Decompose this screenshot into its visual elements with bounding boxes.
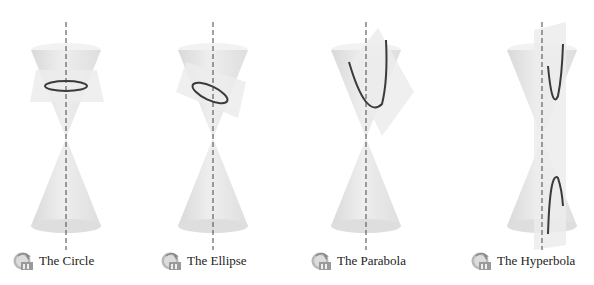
caption-ellipse: The Ellipse bbox=[160, 250, 247, 272]
parabola-cone-diagram bbox=[296, 0, 444, 250]
animation-icon[interactable] bbox=[470, 250, 492, 272]
cutting-plane bbox=[534, 22, 566, 250]
caption-circle: The Circle bbox=[12, 250, 94, 272]
animation-icon[interactable] bbox=[160, 250, 182, 272]
hyperbola-cone-diagram bbox=[444, 0, 594, 250]
panel-hyperbola: The Hyperbola bbox=[444, 0, 592, 285]
caption-parabola: The Parabola bbox=[310, 250, 406, 272]
circle-cone-diagram bbox=[0, 0, 148, 250]
label-hyperbola: The Hyperbola bbox=[497, 253, 575, 269]
label-parabola: The Parabola bbox=[337, 253, 406, 269]
animation-icon[interactable] bbox=[12, 250, 34, 272]
panel-circle: The Circle bbox=[0, 0, 148, 285]
label-ellipse: The Ellipse bbox=[187, 253, 247, 269]
label-circle: The Circle bbox=[39, 253, 94, 269]
animation-icon[interactable] bbox=[310, 250, 332, 272]
ellipse-cone-diagram bbox=[148, 0, 296, 250]
panel-parabola: The Parabola bbox=[296, 0, 444, 285]
cutting-plane bbox=[30, 70, 104, 102]
panel-ellipse: The Ellipse bbox=[148, 0, 296, 285]
caption-hyperbola: The Hyperbola bbox=[470, 250, 575, 272]
